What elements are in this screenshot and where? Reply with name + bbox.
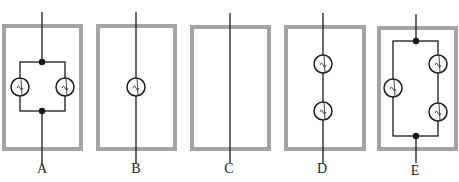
junction-dot — [39, 108, 45, 114]
bulb-icon — [429, 103, 447, 121]
panel-label-d: D — [312, 161, 332, 177]
bulb-icon — [384, 79, 402, 97]
junction-dot — [39, 59, 45, 65]
bulb-icon — [314, 102, 332, 120]
bulb-icon — [314, 55, 332, 73]
bulb-icon — [56, 78, 74, 96]
box-d — [286, 27, 364, 149]
panel-d — [286, 13, 364, 163]
junction-dot — [413, 38, 419, 44]
panel-label-e: E — [405, 163, 425, 179]
junction-dot — [413, 133, 419, 139]
panel-b — [98, 12, 175, 163]
bulb-icon — [11, 78, 29, 96]
panel-label-b: B — [126, 161, 146, 177]
panel-c — [192, 13, 269, 163]
bulb-icon — [429, 55, 447, 73]
bulb-icon — [127, 78, 145, 96]
panel-e — [379, 14, 456, 163]
panel-a — [4, 12, 81, 163]
circuit-diagram — [0, 0, 459, 182]
panel-label-a: A — [32, 161, 52, 177]
panel-label-c: C — [219, 161, 239, 177]
